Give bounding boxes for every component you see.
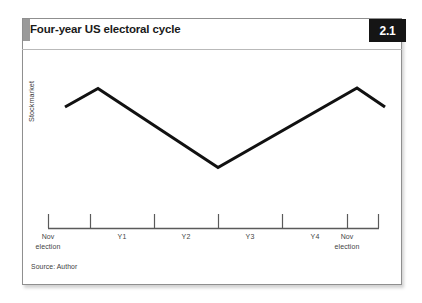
source-note: Source: Author (31, 263, 77, 270)
x-tick-label-nov-election-start: Nov election (18, 232, 78, 251)
x-tick-label-y3: Y3 (220, 232, 280, 242)
x-tick-label-nov-election-end: Nov election (317, 232, 377, 251)
figure-number-badge: 2.1 (369, 19, 406, 42)
frame-corner-tab (23, 19, 30, 41)
y-axis-label: Stockmarket (27, 42, 39, 122)
title-separator (22, 49, 402, 50)
page-title: Four-year US electoral cycle (30, 23, 180, 35)
x-tick-label-y2: Y2 (156, 232, 216, 242)
x-tick-label-y1: Y1 (92, 232, 152, 242)
